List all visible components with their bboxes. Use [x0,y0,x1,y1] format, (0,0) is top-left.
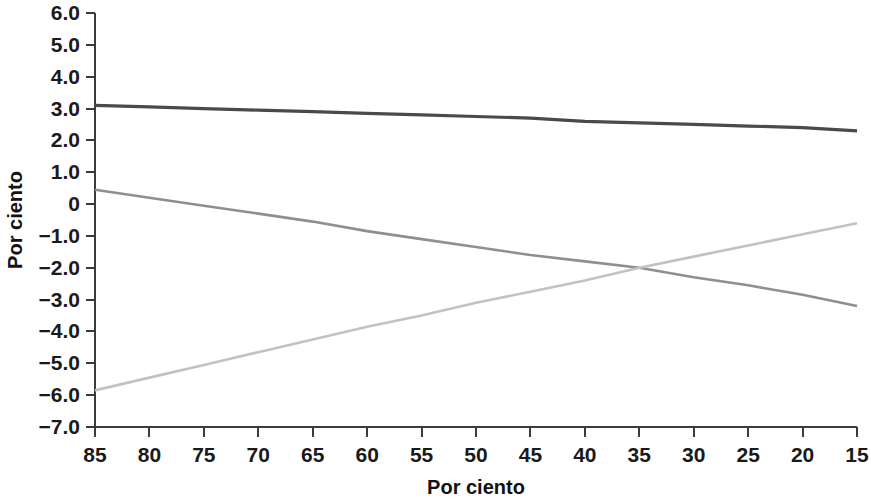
y-tick-label: 0 [68,192,80,215]
x-axis-title: Por ciento [427,476,525,498]
y-tick-label: −3.0 [39,288,80,311]
x-tick-label: 75 [192,443,216,466]
x-tick-label: 65 [301,443,325,466]
x-tick-label: 15 [845,443,869,466]
x-tick-label: 25 [736,443,760,466]
x-tick-label: 50 [464,443,487,466]
y-tick-label: −4.0 [39,319,80,342]
x-tick-label: 20 [791,443,814,466]
x-tick-label: 80 [138,443,161,466]
y-tick-label: −6.0 [39,383,80,406]
y-tick-label: 5.0 [51,33,80,56]
y-tick-label: −1.0 [39,224,80,247]
x-tick-label: 70 [247,443,270,466]
x-tick-label: 45 [519,443,543,466]
y-tick-label: 1.0 [51,160,80,183]
x-tick-label: 60 [355,443,378,466]
y-tick-label: 2.0 [51,128,80,151]
x-tick-label: 55 [410,443,434,466]
chart-container: 6.05.04.03.02.01.00−1.0−2.0−3.0−4.0−5.0−… [0,0,871,503]
y-tick-label: −7.0 [39,415,80,438]
y-tick-label: −2.0 [39,256,80,279]
x-tick-label: 30 [682,443,705,466]
x-tick-label: 35 [628,443,652,466]
x-tick-label: 85 [83,443,107,466]
y-tick-label: 4.0 [51,65,80,88]
x-tick-label: 40 [573,443,596,466]
y-tick-label: 3.0 [51,97,80,120]
y-tick-label: 6.0 [51,1,80,24]
y-axis-title: Por ciento [4,171,26,269]
y-tick-label: −5.0 [39,351,80,374]
x-axis-tick-labels: 858075706560555045403530252015 [83,443,869,466]
line-chart: 6.05.04.03.02.01.00−1.0−2.0−3.0−4.0−5.0−… [0,0,871,503]
